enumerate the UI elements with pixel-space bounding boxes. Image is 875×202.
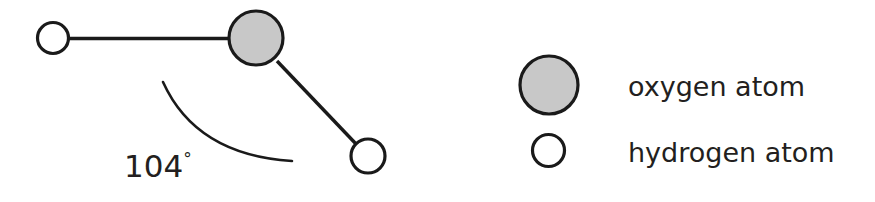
bond-angle-label: 104° — [124, 148, 192, 184]
bond-angle-value: 104 — [124, 148, 183, 184]
legend-label-oxygen: oxygen atom — [628, 71, 805, 102]
legend-label-hydrogen: hydrogen atom — [628, 137, 835, 168]
figure-canvas: 104° oxygen atom hydrogen atom — [0, 0, 875, 202]
atom-legend: oxygen atom hydrogen atom — [520, 56, 835, 168]
hydrogen-swatch-icon — [533, 135, 565, 167]
atom-oxygen-center — [229, 11, 283, 65]
oxygen-swatch-icon — [520, 56, 578, 114]
atom-hydrogen-left — [38, 23, 69, 54]
water-molecule-figure: 104° oxygen atom hydrogen atom — [0, 0, 875, 202]
legend-item-oxygen: oxygen atom — [520, 56, 805, 114]
molecule-group: 104° — [38, 11, 386, 184]
legend-item-hydrogen: hydrogen atom — [533, 135, 835, 169]
atom-hydrogen-lower-right — [351, 139, 385, 173]
degree-symbol: ° — [183, 149, 192, 169]
bond-oxygen-hydrogen-lower-right — [277, 61, 357, 145]
